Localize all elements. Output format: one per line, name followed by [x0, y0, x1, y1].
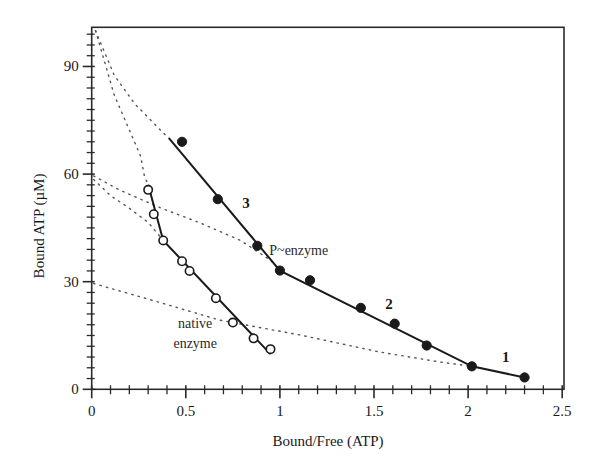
- data-point-native-enzyme: [212, 294, 220, 302]
- dotted-extrapolation-curves: [94, 31, 472, 367]
- data-point-p-enzyme: [253, 241, 262, 250]
- label-2: 2: [385, 296, 393, 312]
- scatchard-plot: 00.511.522.50306090 321P~enzymenativeenz…: [0, 0, 600, 471]
- x-tick-label: 0.5: [176, 403, 195, 419]
- label-p-enzyme: P~enzyme: [269, 243, 328, 258]
- data-point-p-enzyme: [520, 373, 529, 382]
- x-tick-label: 0: [88, 403, 96, 419]
- label-native-line2: enzyme: [173, 336, 217, 351]
- y-tick-label: 30: [64, 274, 79, 290]
- data-point-p-enzyme: [422, 341, 431, 350]
- dotted-curve-extrapolation-1: [94, 284, 472, 367]
- y-tick-label: 90: [64, 58, 79, 74]
- data-point-native-enzyme: [229, 318, 237, 326]
- data-point-p-enzyme: [177, 137, 186, 146]
- data-point-native-enzyme: [266, 345, 274, 353]
- data-point-p-enzyme: [305, 276, 314, 285]
- x-tick-label: 1: [276, 403, 284, 419]
- data-point-p-enzyme: [390, 319, 399, 328]
- annotations: 321P~enzymenativeenzyme: [173, 195, 509, 365]
- dotted-curve-extrapolation-3: [96, 31, 169, 139]
- y-tick-label: 60: [64, 166, 79, 182]
- y-tick-label: 0: [71, 381, 79, 397]
- data-point-native-enzyme: [178, 257, 186, 265]
- plot-frame: [92, 27, 564, 389]
- dotted-curve-extrapolation-native-upper: [96, 31, 149, 185]
- data-point-p-enzyme: [356, 303, 365, 312]
- label-native-line1: native: [178, 316, 212, 331]
- data-point-p-enzyme: [467, 362, 476, 371]
- data-point-p-enzyme: [275, 266, 284, 275]
- dotted-curve-extrapolation-2: [94, 176, 280, 271]
- x-tick-label: 2.5: [553, 403, 572, 419]
- label-3: 3: [242, 195, 250, 211]
- axes: 00.511.522.50306090: [64, 27, 572, 419]
- x-tick-label: 2: [464, 403, 472, 419]
- data-point-native-enzyme: [159, 236, 167, 244]
- y-axis-title: Bound ATP (µM): [31, 174, 48, 279]
- data-point-native-enzyme: [144, 186, 152, 194]
- x-axis-title: Bound/Free (ATP): [272, 433, 383, 450]
- data-point-native-enzyme: [249, 334, 257, 342]
- data-point-native-enzyme: [185, 267, 193, 275]
- x-tick-label: 1.5: [365, 403, 384, 419]
- fit-line-p-enzyme: [169, 138, 525, 377]
- data-point-native-enzyme: [150, 210, 158, 218]
- data-point-p-enzyme: [213, 195, 222, 204]
- label-1: 1: [502, 349, 510, 365]
